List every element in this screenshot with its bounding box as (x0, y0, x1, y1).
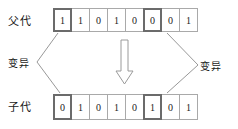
connector-right-to-child (167, 65, 198, 93)
child-row-label: 子代 (8, 98, 31, 114)
child-gene-cell: 1 (71, 94, 90, 120)
parent-row-label: 父代 (8, 12, 31, 28)
child-gene-cell: 1 (179, 94, 198, 120)
child-gene-cell: 0 (125, 94, 144, 120)
parent-gene-cell: 0 (125, 8, 144, 32)
child-gene-cell: 0 (53, 94, 72, 120)
mutation-label-left: 变异 (8, 55, 29, 70)
child-gene-cell: 0 (161, 94, 180, 120)
parent-gene-cell: 1 (107, 8, 126, 32)
connector-right-to-parent (167, 33, 198, 65)
parent-gene-cell: 0 (161, 8, 180, 32)
parent-gene-cell: 1 (53, 8, 72, 32)
parent-chromosome-strip: 11010001 (53, 8, 197, 32)
child-gene-cell: 1 (107, 94, 126, 120)
parent-gene-cell: 1 (71, 8, 90, 32)
child-chromosome-strip: 01010101 (53, 94, 197, 120)
parent-gene-cell: 0 (89, 8, 108, 32)
genetic-mutation-diagram: 父代 子代 变异 变异 11010001 01010101 (0, 0, 238, 129)
parent-gene-cell: 0 (143, 8, 162, 32)
connector-left-to-child (37, 62, 60, 93)
child-gene-cell: 0 (89, 94, 108, 120)
parent-gene-cell: 1 (179, 8, 198, 32)
child-gene-cell: 1 (143, 94, 162, 120)
down-arrow-icon (116, 40, 133, 84)
mutation-label-right: 变异 (200, 58, 221, 73)
connector-left-to-parent (37, 33, 58, 62)
